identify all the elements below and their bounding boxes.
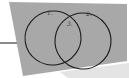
region-1-label: 1. xyxy=(47,9,53,16)
region-2-label: 2. xyxy=(85,10,92,17)
venn-diagram-photo: 1. 2. 3. xyxy=(0,0,129,78)
region-3-label: 3. xyxy=(67,20,73,27)
